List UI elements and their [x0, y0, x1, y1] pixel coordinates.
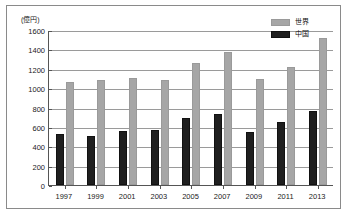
x-axis-tick-label: 2003	[150, 192, 167, 201]
bar-series-container	[49, 31, 333, 185]
bar-group	[144, 31, 176, 185]
y-axis-tick-label: 400	[11, 143, 45, 152]
y-axis-tick-label: 200	[11, 162, 45, 171]
x-axis-tick-label: 2007	[214, 192, 231, 201]
bar-china-2003	[151, 130, 159, 185]
y-axis-tick-label: 800	[11, 104, 45, 113]
bar-world-1999	[97, 80, 105, 185]
legend-swatch-china	[271, 31, 290, 38]
legend-item-world[interactable]: 世界	[271, 17, 333, 27]
bar-group	[49, 31, 81, 185]
bar-group	[112, 31, 144, 185]
bar-group	[176, 31, 208, 185]
bar-china-2011	[277, 122, 285, 185]
x-axis-tick-labels: 199719992001200320052007200920112013	[48, 190, 333, 204]
y-axis-unit-label: (億円)	[21, 14, 40, 24]
bar-group	[239, 31, 271, 185]
bar-world-2011	[287, 67, 295, 185]
bar-world-2003	[161, 80, 169, 185]
bar-china-2009	[246, 132, 254, 185]
bar-china-2005	[182, 118, 190, 185]
bar-world-2001	[129, 78, 137, 185]
bar-world-2005	[192, 63, 200, 185]
y-axis-tick-label: 1600	[11, 27, 45, 36]
bar-china-2001	[119, 131, 127, 185]
x-axis-tick-label: 2011	[277, 192, 293, 201]
x-axis-tick-label: 2009	[245, 192, 262, 201]
bar-china-1999	[87, 136, 95, 185]
bar-world-2013	[319, 38, 327, 185]
bar-group	[207, 31, 239, 185]
x-axis-tick-mark	[223, 185, 224, 189]
chart-frame: (億円) 世界 中国 16001400120010008006004002000…	[6, 5, 341, 209]
bar-china-2007	[214, 114, 222, 185]
y-axis-tick-labels: 16001400120010008006004002000	[7, 31, 45, 186]
y-axis-tick-label: 600	[11, 123, 45, 132]
x-axis-tick-mark	[286, 185, 287, 189]
x-axis-tick-mark	[65, 185, 66, 189]
bar-china-1997	[56, 134, 64, 185]
bar-group	[271, 31, 303, 185]
x-axis-tick-label: 2005	[182, 192, 199, 201]
x-axis-tick-mark	[96, 185, 97, 189]
y-axis-tick-label: 1000	[11, 85, 45, 94]
x-axis-tick-mark	[128, 185, 129, 189]
x-axis-tick-mark	[318, 185, 319, 189]
bar-world-1997	[66, 82, 74, 185]
y-axis-tick-mark	[49, 186, 52, 187]
legend-item-china[interactable]: 中国	[271, 29, 333, 39]
bar-group	[302, 31, 334, 185]
plot-area	[48, 31, 333, 186]
x-axis-tick-mark	[255, 185, 256, 189]
y-axis-tick-label: 1200	[11, 65, 45, 74]
bar-world-2009	[256, 79, 264, 185]
legend-swatch-world	[271, 19, 290, 26]
x-axis-tick-label: 1999	[87, 192, 104, 201]
bar-group	[81, 31, 113, 185]
legend-label-china: 中国	[295, 30, 309, 38]
bar-china-2013	[309, 111, 317, 185]
bar-world-2007	[224, 52, 232, 185]
x-axis-tick-mark	[191, 185, 192, 189]
y-axis-tick-label: 0	[11, 182, 45, 191]
x-axis-tick-label: 1997	[55, 192, 72, 201]
x-axis-tick-label: 2001	[119, 192, 136, 201]
x-axis-tick-mark	[160, 185, 161, 189]
x-axis-tick-label: 2013	[309, 192, 326, 201]
chart-legend: 世界 中国	[271, 17, 333, 41]
legend-label-world: 世界	[295, 18, 309, 26]
y-axis-tick-label: 1400	[11, 46, 45, 55]
